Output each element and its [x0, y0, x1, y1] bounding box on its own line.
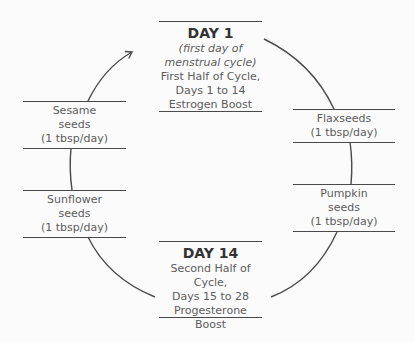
divider-bottom [23, 148, 126, 149]
day14-line1: Second Half of Cycle, [159, 262, 262, 290]
sesame-line2: seeds [23, 118, 126, 132]
pumpkin-line2: seeds [293, 201, 395, 215]
node-flaxseeds: Flaxseeds (1 tbsp/day) [293, 109, 395, 143]
day1-line3: Estrogen Boost [159, 98, 262, 112]
divider-bottom [293, 231, 395, 232]
day1-subtitle-line2: menstrual cycle) [159, 56, 262, 70]
day14-line2: Days 15 to 28 [159, 290, 262, 304]
pumpkin-line3: (1 tbsp/day) [293, 215, 395, 229]
day1-subtitle-line1: (first day of [159, 42, 262, 56]
day14-line3: Progesterone [159, 304, 262, 318]
day1-line1: First Half of Cycle, [159, 70, 262, 84]
arc-sunflower-to-sesame [70, 148, 72, 190]
flaxseeds-line2: (1 tbsp/day) [293, 126, 395, 140]
day1-title: DAY 1 [159, 25, 262, 42]
sunflower-line3: (1 tbsp/day) [23, 221, 126, 235]
divider-top [159, 21, 262, 22]
divider-bottom [293, 142, 395, 143]
arc-day1-to-flaxseeds [264, 39, 334, 109]
divider-bottom [23, 237, 126, 238]
arc-pumpkin-to-day14 [271, 232, 337, 297]
sesame-line3: (1 tbsp/day) [23, 132, 126, 146]
node-sesame-seeds: Sesame seeds (1 tbsp/day) [23, 101, 126, 149]
arc-day14-to-sunflower [88, 237, 155, 297]
node-day1: DAY 1 (first day of menstrual cycle) Fir… [159, 21, 262, 112]
node-day14: DAY 14 Second Half of Cycle, Days 15 to … [159, 241, 262, 318]
sunflower-line1: Sunflower [23, 193, 126, 207]
sunflower-line2: seeds [23, 207, 126, 221]
day14-line4: Boost [159, 318, 262, 332]
arc-sesame-to-day1 [88, 52, 132, 101]
node-pumpkin-seeds: Pumpkin seeds (1 tbsp/day) [293, 184, 395, 232]
divider-top [23, 190, 126, 191]
divider-top [293, 184, 395, 185]
divider-top [293, 109, 395, 110]
flaxseeds-line1: Flaxseeds [293, 112, 395, 126]
divider-top [23, 101, 126, 102]
divider-bottom [159, 111, 262, 112]
node-sunflower-seeds: Sunflower seeds (1 tbsp/day) [23, 190, 126, 238]
arc-flaxseeds-to-pumpkin [350, 142, 352, 184]
day1-line2: Days 1 to 14 [159, 84, 262, 98]
divider-top [159, 241, 262, 242]
day14-title: DAY 14 [159, 245, 262, 262]
sesame-line1: Sesame [23, 104, 126, 118]
pumpkin-line1: Pumpkin [293, 187, 395, 201]
divider-bottom [159, 317, 262, 318]
